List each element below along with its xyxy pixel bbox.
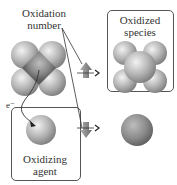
- reduced-species-sphere: [121, 114, 153, 146]
- down-arrow-icon: [77, 122, 99, 138]
- oxidizing-agent-label: Oxidizing agent: [12, 153, 78, 177]
- reactant-cluster: [11, 41, 66, 96]
- oxidizing-agent-sphere: [26, 115, 56, 145]
- up-arrow-icon: [77, 62, 99, 78]
- oxidized-species-cluster: [113, 41, 167, 93]
- oxidation-number-label: Oxidation number: [14, 7, 74, 31]
- electron-label: e⁻: [6, 99, 15, 111]
- oxidized-species-label: Oxidized species: [110, 14, 170, 38]
